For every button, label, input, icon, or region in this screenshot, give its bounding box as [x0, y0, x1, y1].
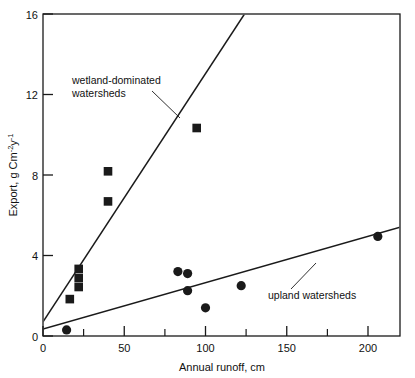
upland-annotation-line1: upland watersheds	[268, 289, 356, 301]
x-tick-label: 50	[118, 342, 130, 354]
wetland-points	[66, 124, 202, 304]
wetland-annotation-leader	[152, 91, 180, 118]
x-tick-label: 150	[278, 342, 296, 354]
data-point-square	[104, 167, 113, 176]
upland-fit-line	[43, 227, 400, 329]
data-point-circle	[183, 286, 192, 295]
y-axis-ticks	[43, 14, 53, 336]
data-point-square	[104, 197, 113, 206]
data-point-circle	[201, 303, 210, 312]
data-point-circle	[173, 267, 182, 276]
data-point-circle	[62, 325, 71, 334]
scatter-plot: 16 12 8 4 0 0 50 100 150 200	[0, 0, 415, 378]
y-tick-label: 0	[32, 331, 38, 343]
data-point-circle	[183, 269, 192, 278]
data-point-square	[192, 124, 201, 133]
y-axis-title-sup2: -1	[6, 133, 15, 140]
x-axis-ticks	[43, 326, 368, 336]
data-point-circle	[237, 281, 246, 290]
y-axis-title-lead: Export, g Cm	[7, 152, 19, 216]
upland-annotation-leader	[291, 263, 316, 289]
y-axis-title: Export, g Cm-2y-1	[6, 133, 19, 216]
data-point-square	[66, 295, 75, 304]
y-axis-title-sup1: -2	[6, 146, 15, 153]
chart-figure: 16 12 8 4 0 0 50 100 150 200	[0, 0, 415, 378]
x-tick-labels: 0 50 100 150 200	[40, 342, 377, 354]
wetland-annotation-line1: wetland-dominated	[71, 74, 161, 86]
x-axis-title: Annual runoff, cm	[179, 361, 265, 373]
x-tick-label: 200	[359, 342, 377, 354]
y-tick-label: 16	[26, 9, 38, 21]
x-tick-label: 0	[40, 342, 46, 354]
data-point-square	[74, 274, 83, 283]
y-tick-label: 4	[32, 250, 38, 262]
data-point-circle	[373, 232, 382, 241]
upland-annotation: upland watersheds	[268, 263, 356, 301]
data-point-square	[74, 265, 83, 274]
wetland-annotation-line2: watersheds	[71, 87, 126, 99]
data-point-square	[74, 283, 83, 292]
x-tick-label: 100	[196, 342, 214, 354]
y-tick-labels: 16 12 8 4 0	[26, 9, 38, 343]
y-tick-label: 8	[32, 170, 38, 182]
plot-frame	[43, 14, 400, 336]
y-tick-label: 12	[26, 89, 38, 101]
upland-points	[62, 232, 382, 335]
svg-text:Export, g Cm-2y-1: Export, g Cm-2y-1	[6, 133, 19, 216]
wetland-fit-line	[43, 14, 245, 322]
wetland-annotation: wetland-dominated watersheds	[71, 74, 180, 118]
